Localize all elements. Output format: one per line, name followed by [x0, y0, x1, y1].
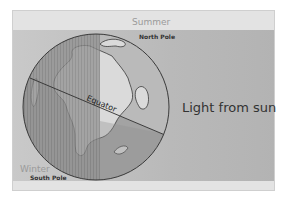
- light-from-sun-label: Light from sun: [182, 101, 276, 114]
- summer-label: Summer: [132, 18, 170, 27]
- south-pole-label: South Pole: [30, 175, 67, 181]
- winter-label: Winter: [20, 165, 50, 174]
- north-pole-label: North Pole: [139, 34, 175, 40]
- night-side: [0, 0, 100, 199]
